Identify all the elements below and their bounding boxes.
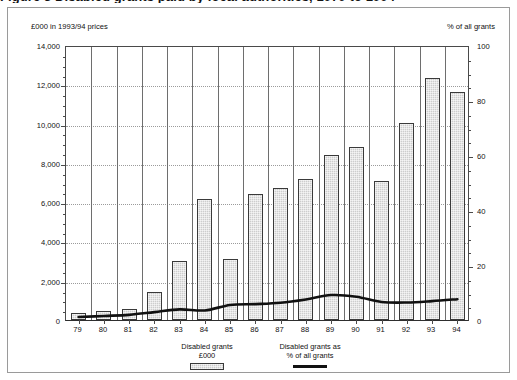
x-axis-label-80: 80 [89, 325, 117, 334]
x-axis-label-82: 82 [139, 325, 167, 334]
x-axis-label-93: 93 [417, 325, 445, 334]
legend-label-line1: Disabled grants as [279, 342, 340, 351]
figure-title: Figure 3 Disabled grants paid by local a… [0, 0, 517, 3]
right-axis-tick-label: 0 [477, 317, 481, 326]
right-axis-tick-label: 60 [477, 152, 485, 161]
legend-item-2: Disabled grants as% of all grants [263, 342, 358, 370]
right-axis-unit-label: % of all grants [447, 22, 495, 31]
plot-area [65, 46, 469, 321]
x-axis-label-81: 81 [114, 325, 142, 334]
left-axis-tick-label: 4,000 [16, 238, 60, 247]
left-axis-tick-label: 8,000 [16, 160, 60, 169]
x-axis-label-92: 92 [392, 325, 420, 334]
chart-screenshot: Figure 3 Disabled grants paid by local a… [0, 0, 517, 380]
left-axis-tick-label: 14,000 [16, 42, 60, 51]
left-axis-tick-label: 0 [16, 317, 60, 326]
chart-frame: £000 in 1993/94 prices % of all grants 0… [7, 7, 510, 373]
x-axis-label-85: 85 [215, 325, 243, 334]
x-axis-label-83: 83 [165, 325, 193, 334]
x-axis-label-87: 87 [266, 325, 294, 334]
percent-line [79, 295, 458, 317]
right-axis-tick-label: 80 [477, 97, 485, 106]
x-axis-label-84: 84 [190, 325, 218, 334]
left-axis-tick-label: 10,000 [16, 121, 60, 130]
line-series [66, 47, 470, 322]
chart-legend: Disabled grants£000Disabled grants as% o… [8, 342, 509, 370]
line-swatch [293, 365, 327, 368]
left-axis-tick-label: 12,000 [16, 81, 60, 90]
bar-swatch [190, 363, 224, 370]
left-axis-unit-label: £000 in 1993/94 prices [31, 22, 108, 31]
legend-label-line1: Disabled grants [181, 342, 232, 351]
x-axis-label-94: 94 [442, 325, 470, 334]
right-axis-tick-label: 20 [477, 262, 485, 271]
right-axis-tick-label: 40 [477, 207, 485, 216]
x-axis-label-91: 91 [367, 325, 395, 334]
x-axis-label-90: 90 [341, 325, 369, 334]
x-axis-label-86: 86 [240, 325, 268, 334]
legend-label-line2: £000 [199, 351, 215, 360]
left-axis-tick-label: 2,000 [16, 278, 60, 287]
left-axis-tick-label: 6,000 [16, 199, 60, 208]
x-axis-label-88: 88 [291, 325, 319, 334]
x-axis-label-79: 79 [64, 325, 92, 334]
x-axis-label-89: 89 [316, 325, 344, 334]
right-axis-tick-label: 100 [477, 42, 490, 51]
legend-label-line2: % of all grants [287, 351, 334, 360]
legend-item-1: Disabled grants£000 [160, 342, 255, 370]
